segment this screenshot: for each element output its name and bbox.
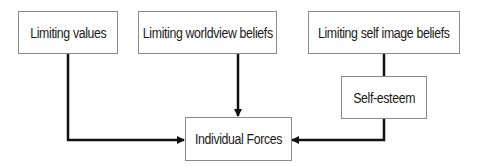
edge-values-to-forces xyxy=(68,53,184,140)
node-limiting-values: Limiting values xyxy=(18,11,118,54)
node-self-esteem: Self-esteem xyxy=(341,76,427,119)
node-label: Limiting values xyxy=(30,25,106,41)
node-limiting-self-image-beliefs: Limiting self image beliefs xyxy=(308,11,460,54)
node-limiting-worldview-beliefs: Limiting worldview beliefs xyxy=(138,11,277,54)
node-label: Limiting self image beliefs xyxy=(318,25,450,41)
node-label: Limiting worldview beliefs xyxy=(143,25,273,41)
node-individual-forces: Individual Forces xyxy=(185,117,292,161)
edge-selfesteem-to-forces xyxy=(292,118,384,140)
node-label: Self-esteem xyxy=(353,90,415,106)
node-label: Individual Forces xyxy=(195,131,282,147)
